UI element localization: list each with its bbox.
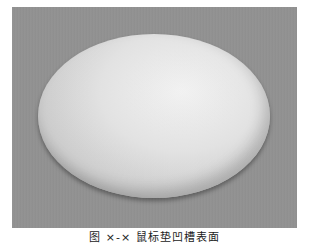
capsule-shape (38, 34, 270, 198)
figure-photo (12, 7, 297, 228)
figure-caption: 图 ×-× 鼠标垫凹槽表面 (0, 228, 309, 244)
